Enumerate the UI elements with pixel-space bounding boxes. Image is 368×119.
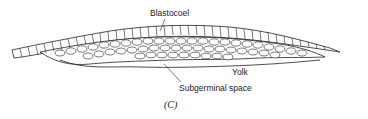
subgerminal-leader-line	[164, 64, 181, 82]
blastoderm-cross-section-figure: Blastocoel Yolk Subgerminal space (C)	[0, 0, 368, 119]
figure-caption: (C)	[164, 100, 177, 110]
blastocoel-label: Blastocoel	[150, 9, 189, 18]
yolk-label: Yolk	[232, 68, 248, 77]
subgerminal-space-label: Subgerminal space	[179, 84, 252, 93]
